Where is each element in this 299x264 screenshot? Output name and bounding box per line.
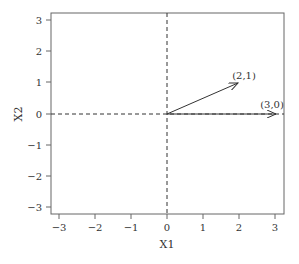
x-tick-label: 1: [200, 222, 206, 233]
y-axis: [46, 20, 51, 207]
y-tick-label: −3: [27, 202, 42, 213]
vector-label-2-1: (2,1): [232, 70, 256, 81]
vector-arrow-2-1: [167, 83, 238, 114]
x-tick-label: 3: [272, 222, 278, 233]
x-tick-label: −3: [52, 222, 67, 233]
x-tick-label: −1: [124, 222, 139, 233]
y-tick-label: 2: [36, 46, 42, 57]
vector-plot: −3 −2 −1 0 1 2 3 3 2 1 0 −1 −2 −3 X1 X2 …: [0, 0, 299, 264]
y-tick-label: 1: [36, 77, 42, 88]
x-tick-label: 0: [164, 222, 170, 233]
y-tick-label: 3: [36, 15, 42, 26]
y-tick-label: 0: [36, 109, 42, 120]
vector-label-3-0: (3,0): [260, 99, 284, 110]
y-tick-label: −2: [27, 171, 42, 182]
x-tick-label: 2: [236, 222, 242, 233]
y-axis-label: X2: [12, 107, 25, 122]
x-tick-label: −2: [88, 222, 103, 233]
y-tick-label: −1: [27, 140, 42, 151]
x-axis-label: X1: [160, 238, 175, 251]
x-axis: [59, 214, 275, 219]
